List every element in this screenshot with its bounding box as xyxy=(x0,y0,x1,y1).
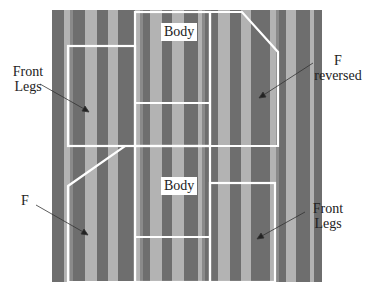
callout-line: F xyxy=(18,193,32,208)
front-legs-piece-bottom xyxy=(210,183,275,282)
callout-line: Legs xyxy=(8,79,48,94)
callout-line: Legs xyxy=(300,216,356,231)
body-label-bottom: Body xyxy=(161,177,197,195)
callout-line: reversed xyxy=(308,68,368,83)
body-label-top: Body xyxy=(161,23,197,41)
f-reversed-piece xyxy=(210,12,278,146)
callout-line: Front xyxy=(8,64,48,79)
callout-front-legs-right: Front Legs xyxy=(300,201,356,231)
callout-f: F xyxy=(18,193,32,208)
callout-line: F xyxy=(308,53,368,68)
pattern-outlines xyxy=(0,0,370,299)
callout-f-reversed: F reversed xyxy=(308,53,368,83)
body-piece-bottom xyxy=(135,146,210,282)
f-piece xyxy=(68,146,135,282)
fabric-layout-figure: Body Body Front Legs F reversed F Front … xyxy=(0,0,370,299)
callout-line: Front xyxy=(300,201,356,216)
front-legs-piece-top xyxy=(68,46,135,146)
callout-front-legs-left: Front Legs xyxy=(8,64,48,94)
